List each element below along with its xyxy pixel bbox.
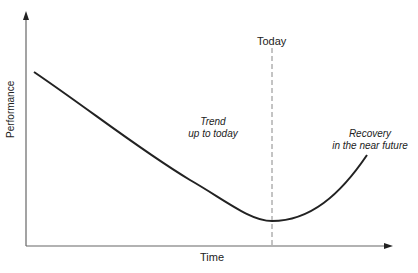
recovery-annotation-line1: Recovery [320,128,418,140]
x-axis-label: Time [200,251,224,263]
x-axis-arrow-icon [384,243,393,249]
y-axis-label: Performance [5,81,17,138]
today-label: Today [257,35,286,47]
trend-annotation: Trend up to today [178,116,248,140]
trend-annotation-line1: Trend [178,116,248,128]
trend-annotation-line2: up to today [178,128,248,140]
performance-curve [34,72,367,221]
recovery-annotation-line2: in the near future [320,140,418,152]
recovery-annotation: Recovery in the near future [320,128,418,152]
y-axis-arrow-icon [23,11,29,20]
